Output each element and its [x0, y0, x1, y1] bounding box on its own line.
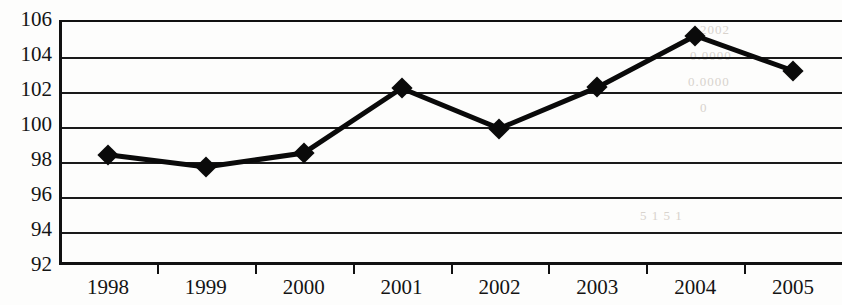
- x-axis-tick-mark: [255, 265, 257, 274]
- x-axis-tick-mark: [744, 265, 746, 274]
- y-axis-labels: 92949698100102104106: [0, 0, 52, 305]
- line-series: [59, 20, 842, 265]
- x-axis-tick-label: 2001: [353, 277, 451, 298]
- x-axis-tick-mark: [157, 265, 159, 274]
- chart-figure: 2002 0.0000 0.0000 0 5 1 5 1 92949698100…: [0, 0, 842, 305]
- y-axis-tick-label: 94: [0, 219, 52, 240]
- y-axis-tick-label: 98: [0, 149, 52, 170]
- y-axis-tick-label: 100: [0, 114, 52, 135]
- x-axis-tick-label: 2004: [646, 277, 744, 298]
- y-axis-tick-label: 106: [0, 9, 52, 30]
- x-axis-tick-label: 2002: [451, 277, 549, 298]
- x-axis-tick-label: 2003: [548, 277, 646, 298]
- x-axis-tick-label: 1998: [59, 277, 157, 298]
- y-axis-tick-label: 102: [0, 79, 52, 100]
- y-axis-tick-label: 104: [0, 44, 52, 65]
- x-axis-tick-label: 2000: [255, 277, 353, 298]
- x-axis-tick-mark: [548, 265, 550, 274]
- x-axis-tick-mark: [451, 265, 453, 274]
- x-axis-tick-mark: [353, 265, 355, 274]
- x-axis-tick-label: 1999: [157, 277, 255, 298]
- y-axis-tick-label: 96: [0, 184, 52, 205]
- x-axis-tick-mark: [646, 265, 648, 274]
- y-axis-tick-label: 92: [0, 254, 52, 275]
- x-axis-tick-label: 2005: [744, 277, 842, 298]
